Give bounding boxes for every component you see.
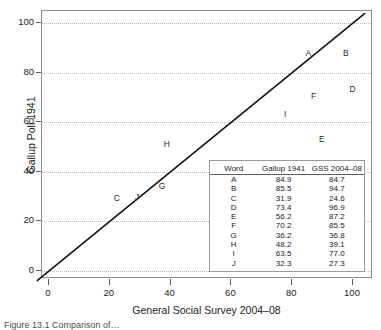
point-label-e: E xyxy=(319,135,325,144)
table-cell-gallup: 36.2 xyxy=(257,231,309,240)
x-tick-label-40: 40 xyxy=(155,288,185,298)
table-cell-gss: 87.2 xyxy=(310,212,364,221)
x-tick-label-80: 80 xyxy=(276,288,306,298)
point-label-d: D xyxy=(350,85,356,94)
table-row: I63.577.0 xyxy=(210,249,364,258)
table-cell-word: F xyxy=(210,221,257,230)
x-tick-label-20: 20 xyxy=(94,288,124,298)
x-tick-label-60: 60 xyxy=(215,288,245,298)
table-row: E56.287.2 xyxy=(210,212,364,221)
inset-data-table: Word Gallup 1941 GSS 2004–08 A84.984.7B8… xyxy=(209,160,365,272)
point-label-i: I xyxy=(284,110,286,119)
column-header-gallup: Gallup 1941 xyxy=(257,161,309,175)
point-label-g: G xyxy=(159,182,166,191)
table-cell-gallup: 32.3 xyxy=(257,259,309,268)
table-cell-word: D xyxy=(210,203,257,212)
x-tick-mark-60 xyxy=(230,279,231,285)
y-tick-label-0: 0 xyxy=(29,265,34,275)
table-cell-gss: 27.3 xyxy=(310,259,364,268)
table-row: A84.984.7 xyxy=(210,175,364,185)
table-row: F70.285.5 xyxy=(210,221,364,230)
x-tick-mark-100 xyxy=(352,279,353,285)
point-label-b: B xyxy=(343,49,349,58)
table-cell-word: J xyxy=(210,259,257,268)
y-axis-title: Gallup Poll 1941 xyxy=(25,55,37,215)
figure-caption: Figure 13.1 Comparison of… xyxy=(4,320,120,330)
x-tick-mark-80 xyxy=(291,279,292,285)
x-tick-mark-40 xyxy=(170,279,171,285)
y-tick-label-20: 20 xyxy=(23,215,34,225)
table-cell-gss: 84.7 xyxy=(310,175,364,185)
y-tick-label-80: 80 xyxy=(23,67,34,77)
table-cell-word: C xyxy=(210,194,257,203)
table-cell-word: I xyxy=(210,249,257,258)
table-cell-gss: 36.8 xyxy=(310,231,364,240)
table-cell-word: H xyxy=(210,240,257,249)
table-cell-gallup: 48.2 xyxy=(257,240,309,249)
point-label-a: A xyxy=(305,49,311,58)
table-row: J32.327.3 xyxy=(210,259,364,268)
table-cell-gallup: 63.5 xyxy=(257,249,309,258)
table-header-row: Word Gallup 1941 GSS 2004–08 xyxy=(210,161,364,175)
table-row: G36.236.8 xyxy=(210,231,364,240)
x-tick-mark-20 xyxy=(109,279,110,285)
column-header-word: Word xyxy=(210,161,257,175)
table-body: A84.984.7B85.594.7C31.924.6D73.496.9E56.… xyxy=(210,175,364,268)
table-cell-gss: 85.5 xyxy=(310,221,364,230)
data-table: Word Gallup 1941 GSS 2004–08 A84.984.7B8… xyxy=(210,161,364,268)
y-tick-label-100: 100 xyxy=(18,17,34,27)
x-tick-label-0: 0 xyxy=(33,288,63,298)
table-head: Word Gallup 1941 GSS 2004–08 xyxy=(210,161,364,175)
table-cell-word: A xyxy=(210,175,257,185)
table-cell-word: E xyxy=(210,212,257,221)
table-cell-gallup: 85.5 xyxy=(257,184,309,193)
table-cell-gss: 94.7 xyxy=(310,184,364,193)
point-label-h: H xyxy=(164,140,170,149)
y-tick-label-60: 60 xyxy=(23,116,34,126)
table-cell-gallup: 56.2 xyxy=(257,212,309,221)
x-tick-label-100: 100 xyxy=(337,288,367,298)
table-cell-gss: 77.0 xyxy=(310,249,364,258)
scatter-plot-figure: Gallup Poll 1941 020406080100 ABCDEFGHIJ… xyxy=(0,0,381,330)
table-cell-gallup: 31.9 xyxy=(257,194,309,203)
table-cell-word: B xyxy=(210,184,257,193)
y-tick-label-40: 40 xyxy=(23,166,34,176)
table-cell-gallup: 70.2 xyxy=(257,221,309,230)
table-cell-gss: 24.6 xyxy=(310,194,364,203)
table-row: D73.496.9 xyxy=(210,203,364,212)
point-label-c: C xyxy=(114,194,120,203)
table-cell-gss: 39.1 xyxy=(310,240,364,249)
point-label-f: F xyxy=(311,92,316,101)
column-header-gss: GSS 2004–08 xyxy=(310,161,364,175)
table-row: C31.924.6 xyxy=(210,194,364,203)
table-cell-word: G xyxy=(210,231,257,240)
table-cell-gallup: 84.9 xyxy=(257,175,309,185)
x-axis-title: General Social Survey 2004–08 xyxy=(41,304,372,316)
table-row: H48.239.1 xyxy=(210,240,364,249)
x-tick-mark-0 xyxy=(48,279,49,285)
table-cell-gallup: 73.4 xyxy=(257,203,309,212)
table-row: B85.594.7 xyxy=(210,184,364,193)
table-cell-gss: 96.9 xyxy=(310,203,364,212)
point-label-j: J xyxy=(135,193,139,202)
